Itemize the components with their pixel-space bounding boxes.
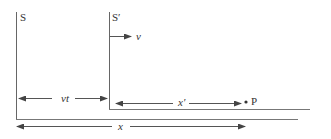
reference-frames-diagram: S S′ v vt x′ P x [0, 0, 331, 139]
x-label: x [117, 120, 123, 132]
frame-s-label: S [20, 11, 26, 23]
frame-s-prime-label: S′ [112, 11, 121, 23]
diagram-svg: S S′ v vt x′ P x [0, 0, 331, 139]
point-p-dot [244, 100, 247, 103]
vt-label: vt [61, 92, 70, 104]
velocity-label: v [136, 30, 141, 42]
frame-s-prime-axes [109, 12, 310, 110]
x-prime-label: x′ [177, 96, 186, 108]
point-p-label: P [251, 95, 257, 107]
